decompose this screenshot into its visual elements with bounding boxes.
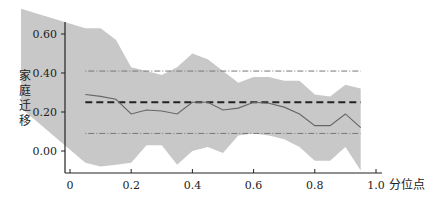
x-tick-label: 0.8	[306, 179, 324, 192]
y-label-char-0: 家	[19, 68, 31, 83]
confidence-band	[21, 9, 361, 171]
y-tick-label: 0.00	[33, 145, 58, 158]
quantile-regression-chart: 0.000.200.400.60 00.20.40.60.81.0 家 庭 迁 …	[0, 0, 440, 204]
x-tick-label: 1.0	[367, 179, 385, 192]
y-label-char-3: 移	[19, 114, 31, 128]
y-label-char-1: 庭	[19, 83, 31, 98]
x-axis-title: 分位点	[389, 177, 425, 192]
x-tick-label: 0.6	[245, 179, 263, 192]
y-label-char-2: 迁	[19, 99, 31, 113]
x-tick-label: 0.2	[122, 179, 140, 192]
band-area	[21, 9, 361, 171]
y-tick-label: 0.40	[33, 67, 58, 80]
y-tick-label: 0.20	[33, 106, 58, 119]
x-tick-label: 0	[67, 179, 74, 192]
x-tick-label: 0.4	[184, 179, 202, 192]
y-tick-label: 0.60	[33, 28, 58, 41]
